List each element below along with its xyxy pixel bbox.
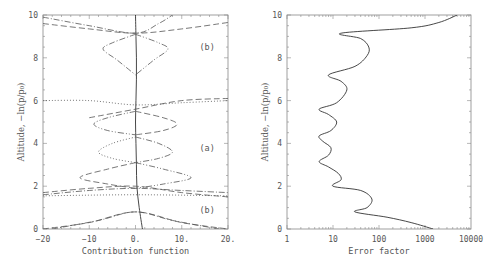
y-tick-label: 6 (277, 97, 282, 106)
series-line-upper-loop-1 (103, 34, 135, 75)
figure: 0246810−20−100.10.20.Contribution functi… (0, 0, 498, 259)
series-line-bottom-loop-2 (136, 163, 192, 189)
x-axis-label: Contribution function (82, 246, 189, 256)
panel-annotation: (b) (200, 42, 215, 52)
x-tick-label: 1 (285, 235, 290, 244)
y-tick-label: 2 (277, 182, 282, 191)
y-tick-label: 4 (33, 139, 38, 148)
x-tick-label: 10. (175, 235, 189, 244)
x-tick-label: 10000 (459, 235, 483, 244)
series-line-bottom-loop-1 (80, 163, 136, 189)
y-tick-label: 0 (33, 225, 38, 234)
series-line-top-kernel-2 (43, 15, 173, 33)
y-tick-label: 4 (277, 139, 282, 148)
x-tick-label: 20. (221, 235, 235, 244)
series-line-lower-loop-1 (99, 137, 136, 163)
series-line-low-kernel-2 (43, 188, 228, 194)
panel-annotation: (a) (200, 143, 215, 153)
series-line-central-solid (136, 15, 143, 229)
plot-frame (287, 15, 471, 229)
series-line-mid-loop-2 (136, 111, 178, 135)
x-tick-label: −10 (82, 235, 97, 244)
x-tick-label: 0. (131, 235, 141, 244)
y-tick-label: 10 (272, 11, 282, 20)
y-tick-label: 8 (33, 54, 38, 63)
series-line-error-factor (319, 15, 457, 229)
y-axis-label: Altitude, −ln(p/p₀) (260, 83, 270, 163)
series-line-low-kernel-3 (43, 195, 228, 196)
y-tick-label: 0 (277, 225, 282, 234)
x-tick-label: 10 (328, 235, 338, 244)
x-axis-label: Error factor (348, 246, 409, 256)
error-factor-plot: 0246810110100100010000Error factorAltitu… (260, 11, 483, 256)
x-tick-label: 1000 (415, 235, 434, 244)
y-tick-label: 10 (28, 11, 38, 20)
y-tick-label: 8 (277, 54, 282, 63)
series-line-upper-loop-2 (136, 34, 168, 75)
y-tick-label: 6 (33, 97, 38, 106)
y-axis-label: Altitude, −ln(p/p₀) (16, 83, 26, 163)
contribution-function-plot: 0246810−20−100.10.20.Contribution functi… (16, 11, 235, 256)
x-tick-label: −20 (36, 235, 51, 244)
x-tick-label: 100 (372, 235, 387, 244)
series-group (319, 15, 457, 229)
panel-annotation: (b) (200, 205, 215, 215)
series-line-mid-loop-1 (94, 111, 136, 135)
series-line-mid-kernel-2 (89, 98, 228, 117)
y-tick-label: 2 (33, 182, 38, 191)
series-line-lower-loop-2 (136, 137, 173, 163)
